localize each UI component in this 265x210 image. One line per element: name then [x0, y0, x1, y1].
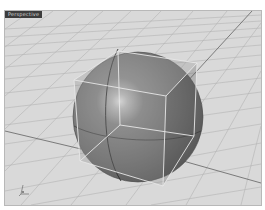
- perspective-viewport[interactable]: Perspective: [4, 10, 262, 206]
- viewport-title-tab[interactable]: Perspective: [5, 11, 42, 18]
- viewport-canvas[interactable]: [5, 11, 261, 205]
- axis-gizmo-icon: [17, 183, 31, 197]
